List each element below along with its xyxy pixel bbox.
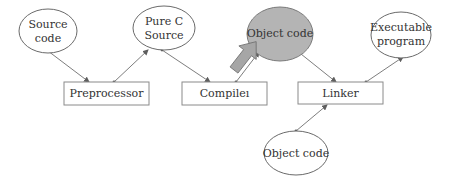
- node-object-code-library-label: Object code: [263, 147, 329, 160]
- node-executable-line1: Executable: [370, 21, 432, 34]
- node-object-code-label: Object code: [247, 27, 313, 40]
- node-object-code-highlighted: Object code: [247, 7, 313, 61]
- edge-library-objectcode-to-linker: [296, 105, 327, 131]
- node-pure-c-source: Pure C Source: [133, 6, 195, 50]
- edge-preprocessor-to-purec: [114, 50, 148, 82]
- node-pure-c-source-line1: Pure C: [145, 15, 183, 28]
- node-source-code-line1: Source: [28, 18, 67, 31]
- node-preprocessor-label: Preprocessor: [70, 87, 145, 100]
- node-executable-program: Executable program: [370, 12, 432, 58]
- node-object-code-library: Object code: [263, 131, 329, 175]
- node-linker: Linker: [298, 82, 383, 104]
- edge-purec-to-compiler: [162, 50, 210, 82]
- node-linker-label: Linker: [322, 87, 359, 100]
- edge-objectcode-to-linker: [296, 50, 336, 82]
- node-executable-line2: program: [377, 35, 426, 48]
- node-compiler-label: Compileı: [200, 87, 250, 100]
- edge-source-to-preprocessor: [48, 51, 89, 82]
- node-preprocessor: Preprocessor: [64, 82, 149, 105]
- node-compiler: Compileı: [182, 82, 267, 105]
- edge-linker-to-executable: [366, 57, 403, 82]
- node-pure-c-source-line2: Source: [144, 29, 183, 42]
- compilation-pipeline-diagram: Source code Pure C Source Object code Ex…: [0, 0, 454, 186]
- node-source-code: Source code: [19, 9, 77, 53]
- node-source-code-line2: code: [35, 32, 61, 45]
